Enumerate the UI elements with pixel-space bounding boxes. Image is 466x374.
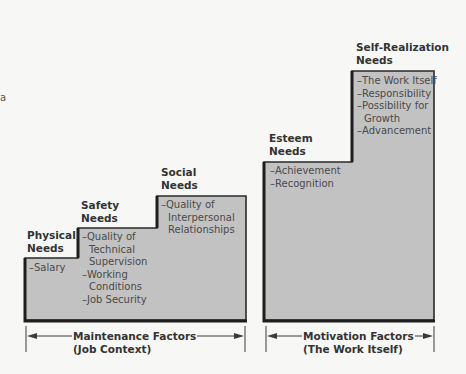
list-item: –Salary [29,262,65,275]
safety-title-line2: Needs [81,212,119,225]
social-needs-list: –Quality of Interpersonal Relationships [161,199,235,237]
safety-needs-title: Safety Needs [81,199,119,225]
list-item: –Responsibility [357,88,437,101]
list-item: –Job Security [82,294,147,307]
self-realization-needs-list: –The Work Itself –Responsibility –Possib… [357,75,437,138]
list-item: Relationships [161,224,235,237]
maintenance-factors-line1: Maintenance Factors [73,330,196,343]
list-item: Conditions [82,281,147,294]
motivation-factors-label: Motivation Factors (The Work Itself) [302,330,415,356]
physical-title-line2: Needs [27,242,76,255]
list-item: –The Work Itself [357,75,437,88]
list-item: –Working [82,269,147,282]
esteem-needs-title: Esteem Needs [269,132,313,158]
social-needs-title: Social Needs [161,166,198,192]
list-item: –Advancement [357,125,437,138]
list-item: Interpersonal [161,212,235,225]
social-title-line2: Needs [161,179,198,192]
list-item: –Achievement [270,165,341,178]
esteem-title-line2: Needs [269,145,313,158]
esteem-needs-list: –Achievement –Recognition [270,165,341,190]
safety-needs-list: –Quality of Technical Supervision –Worki… [82,231,147,306]
physical-needs-title: Physical Needs [27,229,76,255]
list-item: –Quality of [161,199,235,212]
list-item: Technical [82,244,147,257]
list-item: –Recognition [270,178,341,191]
maintenance-factors-line2: (Job Context) [73,343,196,356]
esteem-title-line1: Esteem [269,132,313,145]
list-item: Growth [357,113,437,126]
edge-mark: a [0,92,6,103]
social-title-line1: Social [161,166,198,179]
maintenance-factors-label: Maintenance Factors (Job Context) [72,330,197,356]
self-realization-title-line2: Needs [356,54,449,67]
list-item: Supervision [82,256,147,269]
safety-title-line1: Safety [81,199,119,212]
self-realization-needs-title: Self-Realization Needs [356,41,449,67]
self-realization-title-line1: Self-Realization [356,41,449,54]
physical-title-line1: Physical [27,229,76,242]
list-item: –Possibility for [357,100,437,113]
physical-needs-list: –Salary [29,262,65,275]
motivation-factors-line2: (The Work Itself) [303,343,414,356]
motivation-factors-line1: Motivation Factors [303,330,414,343]
list-item: –Quality of [82,231,147,244]
